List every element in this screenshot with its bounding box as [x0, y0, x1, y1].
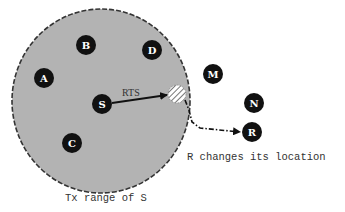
node-R: R — [242, 122, 262, 142]
rts-label: RTS — [122, 87, 140, 98]
node-D: D — [142, 40, 162, 60]
svg-text:M: M — [207, 69, 218, 80]
move-annotation: R changes its location — [187, 151, 326, 163]
node-N: N — [244, 93, 264, 113]
node-B: B — [76, 35, 96, 55]
svg-text:N: N — [249, 98, 258, 109]
svg-text:A: A — [39, 73, 48, 84]
network-diagram: RTS A B D S C M N R R changes its locati… — [0, 0, 345, 212]
svg-text:B: B — [82, 40, 90, 51]
svg-text:S: S — [98, 99, 105, 110]
svg-text:D: D — [148, 45, 157, 56]
svg-text:C: C — [68, 138, 76, 149]
move-path-arrow — [185, 100, 240, 132]
old-position-marker — [168, 85, 186, 103]
svg-text:R: R — [248, 127, 257, 138]
range-annotation: Tx range of S — [65, 192, 147, 204]
node-A: A — [34, 68, 54, 88]
node-M: M — [203, 64, 223, 84]
node-S: S — [92, 94, 112, 114]
node-C: C — [62, 133, 82, 153]
